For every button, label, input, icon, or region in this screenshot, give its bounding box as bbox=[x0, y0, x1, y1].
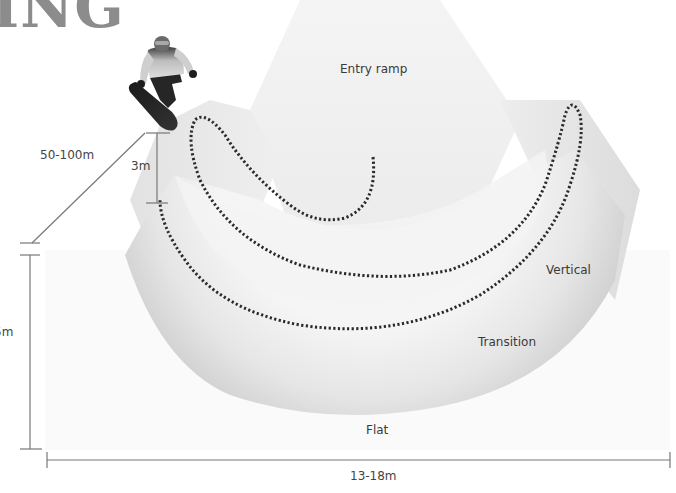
halfpipe-diagram: ING bbox=[0, 0, 676, 493]
entry-ramp-label: Entry ramp bbox=[340, 62, 407, 76]
wall-height-label: 5m bbox=[0, 325, 13, 339]
halfpipe-illustration bbox=[0, 0, 676, 493]
pipe-width-label: 13-18m bbox=[350, 469, 397, 483]
vertical-height-label: 3m bbox=[131, 159, 150, 173]
flat-label: Flat bbox=[366, 423, 388, 437]
transition-label: Transition bbox=[478, 335, 536, 349]
pipe-length-label: 50-100m bbox=[40, 148, 94, 162]
vertical-label: Vertical bbox=[546, 263, 591, 277]
